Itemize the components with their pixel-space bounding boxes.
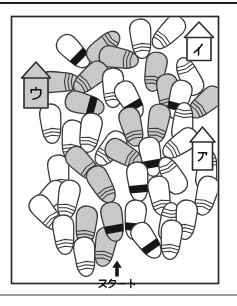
page-bottom-rule [0,294,237,296]
worksheet-page: スタート イ ウ ア [0,0,237,306]
footprint-maze-figure [0,0,237,306]
